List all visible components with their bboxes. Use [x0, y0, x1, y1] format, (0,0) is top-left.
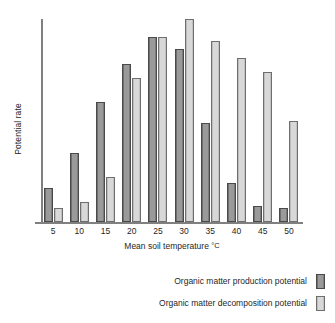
- legend-swatch-production-icon: [316, 274, 325, 289]
- bar-decomposition-5: [54, 208, 63, 222]
- bar-production-15: [96, 102, 105, 222]
- y-axis-title-text: Potential rate: [13, 74, 23, 184]
- x-tick-label-50: 50: [276, 226, 302, 236]
- x-axis-title-text: Mean soil temperature: [124, 241, 211, 251]
- x-tick-label-5: 5: [40, 226, 66, 236]
- x-tick-label-40: 40: [224, 226, 250, 236]
- bar-decomposition-45: [263, 72, 272, 222]
- legend-label-decomposition: Organic matter decomposition potential: [159, 298, 307, 308]
- bar-production-25: [148, 37, 157, 222]
- y-axis-title: Potential rate: [13, 0, 23, 74]
- bar-decomposition-15: [106, 177, 115, 222]
- bar-decomposition-10: [80, 202, 89, 222]
- bar-production-35: [201, 123, 210, 222]
- bar-decomposition-40: [237, 58, 246, 222]
- x-tick-label-20: 20: [119, 226, 145, 236]
- bar-production-20: [122, 64, 131, 222]
- chart-legend: Organic matter production potential Orga…: [110, 272, 325, 316]
- plot-area: [41, 19, 303, 222]
- bar-production-45: [253, 206, 262, 222]
- bar-decomposition-50: [289, 121, 298, 223]
- bar-production-30: [175, 49, 184, 222]
- bar-production-40: [227, 183, 236, 222]
- legend-swatch-decomposition-icon: [316, 296, 325, 311]
- bar-production-10: [70, 153, 79, 222]
- x-tick-label-25: 25: [145, 226, 171, 236]
- bar-series-container: [41, 19, 303, 222]
- x-tick-label-35: 35: [197, 226, 223, 236]
- bar-chart-figure: Potential rate 5101520253035404550 Mean …: [0, 0, 335, 323]
- legend-item-decomposition: Organic matter decomposition potential: [110, 294, 325, 312]
- bar-decomposition-20: [132, 78, 141, 222]
- bar-production-5: [44, 188, 53, 223]
- legend-item-production: Organic matter production potential: [110, 272, 325, 290]
- x-tick-label-30: 30: [171, 226, 197, 236]
- x-axis-line: [35, 222, 303, 224]
- x-axis-tick-labels: 5101520253035404550: [41, 226, 303, 240]
- degree-celsius-unit: °C: [211, 241, 219, 250]
- bar-decomposition-35: [211, 41, 220, 222]
- bar-decomposition-30: [185, 19, 194, 222]
- x-axis-title: Mean soil temperature °C: [41, 241, 303, 251]
- x-tick-label-15: 15: [93, 226, 119, 236]
- bar-decomposition-25: [158, 37, 167, 222]
- legend-label-production: Organic matter production potential: [174, 276, 307, 286]
- x-tick-label-10: 10: [66, 226, 92, 236]
- x-tick-label-45: 45: [250, 226, 276, 236]
- bar-production-50: [279, 208, 288, 222]
